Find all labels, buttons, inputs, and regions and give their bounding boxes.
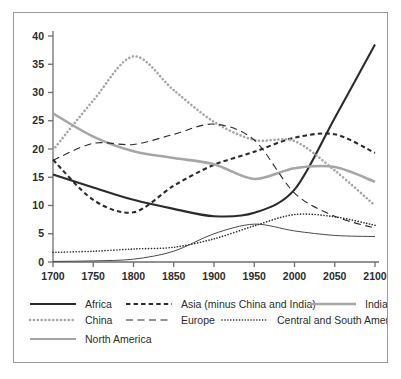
- x-axis-tick-label: 2100: [363, 270, 387, 282]
- x-axis-tick-label: 2000: [283, 270, 307, 282]
- x-axis-tick-label: 1750: [82, 270, 106, 282]
- y-axis-tick-label: 10: [32, 199, 44, 211]
- chart-frame: 170017501800185019001950200020502100 051…: [13, 12, 388, 363]
- legend-label-north-america: North America: [85, 333, 152, 345]
- x-axis-tick-label: 1850: [162, 270, 186, 282]
- x-axis-tick-label: 2050: [323, 270, 347, 282]
- y-axis-tick-label: 20: [32, 143, 44, 155]
- y-axis-tick-label: 35: [32, 58, 44, 70]
- series-group: [53, 44, 375, 261]
- legend-label-india: India: [365, 298, 387, 310]
- series-line-north-america: [53, 224, 375, 261]
- series-line-africa: [53, 44, 375, 216]
- legend-label-africa: Africa: [85, 298, 112, 310]
- y-axis-tick-label: 40: [32, 30, 44, 42]
- chart-legend: AfricaAsia (minus China and India)IndiaC…: [30, 298, 387, 345]
- legend-label-china: China: [85, 314, 113, 326]
- y-axis-tick-labels: 0510152025303540: [32, 30, 44, 268]
- x-axis-tick-label: 1950: [243, 270, 267, 282]
- x-axis-tick-label: 1800: [122, 270, 146, 282]
- legend-label-central-and-south-america: Central and South America: [277, 314, 387, 326]
- y-axis-tick-label: 5: [38, 227, 44, 239]
- chart-figure: 170017501800185019001950200020502100 051…: [0, 0, 401, 379]
- x-axis-tick-label: 1700: [41, 270, 65, 282]
- series-line-asia-minus-china-and-india: [53, 133, 375, 212]
- x-axis-tick-labels: 170017501800185019001950200020502100: [41, 270, 387, 282]
- y-axis-tick-label: 25: [32, 114, 44, 126]
- legend-label-europe: Europe: [181, 314, 215, 326]
- y-axis-tick-label: 0: [38, 256, 44, 268]
- y-axis-tick-label: 15: [32, 171, 44, 183]
- axes-group: [48, 31, 379, 267]
- x-axis-tick-label: 1900: [202, 270, 226, 282]
- legend-label-asia-minus-china-and-india: Asia (minus China and India): [181, 298, 316, 310]
- y-axis-tick-label: 30: [32, 86, 44, 98]
- population-share-line-chart: 170017501800185019001950200020502100 051…: [14, 13, 387, 362]
